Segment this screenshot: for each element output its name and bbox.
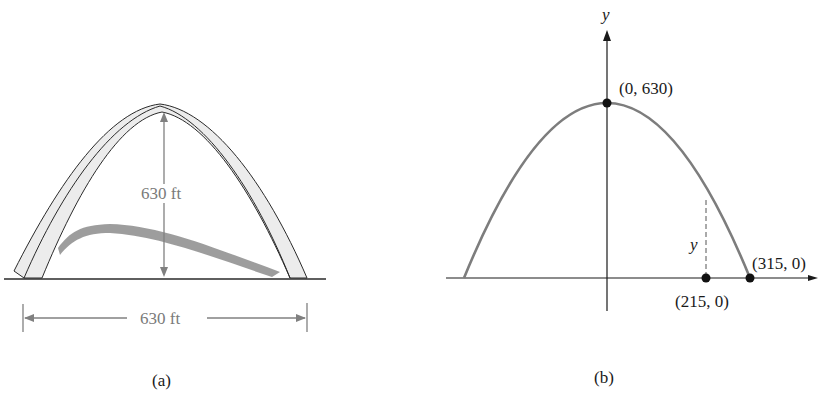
label-315-0: (315, 0) <box>752 255 806 272</box>
width-label: 630 ft <box>140 310 180 327</box>
arch-shadow <box>58 224 280 277</box>
point-vertex <box>603 99 612 108</box>
caption-b: (b) <box>594 369 614 386</box>
label-vertex: (0, 630) <box>619 80 673 97</box>
y-axis-label: y <box>602 6 610 23</box>
figure-canvas <box>0 0 819 402</box>
y-axis-arrow-icon <box>603 30 611 41</box>
label-215-0: (215, 0) <box>675 293 729 310</box>
point-215-0 <box>702 274 711 283</box>
segment-y-label: y <box>690 236 698 253</box>
point-315-0 <box>746 274 755 283</box>
height-label: 630 ft <box>140 184 182 203</box>
caption-a: (a) <box>152 372 171 389</box>
